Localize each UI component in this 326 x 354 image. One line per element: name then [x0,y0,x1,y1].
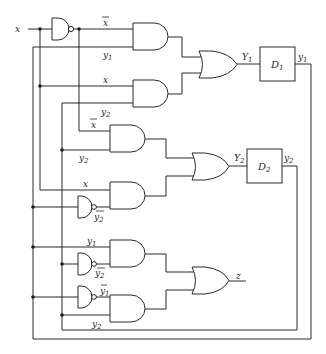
and-gate-6 [110,295,145,322]
label-xbar-and1: x [103,18,108,28]
junction-y1-nand2 [31,295,35,299]
inversion-bubble-icon [92,295,97,300]
label-z-output: z [235,271,241,281]
inversion-bubble-icon [68,26,73,31]
junction-y2-and3 [60,148,64,152]
wire-and5-or3 [145,254,194,272]
junction-y2-nand [60,262,64,266]
label-y2bar-and5: y2 [94,268,105,280]
wire-and1-or1 [168,37,201,57]
wire-and6-or3 [145,290,194,309]
and-gate-3 [110,125,145,152]
wire-y1-feedback [33,47,311,339]
wire-and4-or2 [145,176,194,196]
junction-x [38,27,42,31]
wire-and3-or2 [145,139,194,158]
label-Y2: Y2 [234,153,245,165]
label-y2-and2: y2 [100,107,111,119]
inversion-bubble-icon [92,262,97,267]
and-gate-1 [133,23,168,50]
and-gate-5 [110,240,145,267]
label-y1-and1: y1 [102,50,113,62]
and-gate-2 [133,80,168,107]
label-xbar-and3: x [91,120,96,130]
label-x-and2: x [103,75,108,85]
label-x-and4: x [83,179,88,189]
label-x-input: x [15,24,20,34]
junction-y2-and6 [60,313,64,317]
nand-gate-x [52,18,74,40]
junction-x-and2 [38,84,42,88]
junction-y1-nand [31,205,35,209]
or-gate-3 [192,267,229,294]
label-y1bar-and6: y1 [99,286,110,298]
junction-y1-and5 [31,245,35,249]
junction-xbar [77,27,81,31]
label-y2-and3: y2 [78,153,89,165]
nand-gate-y1bar [78,286,96,308]
label-y1-out: y1 [297,52,308,64]
or-gate-2 [192,153,229,180]
wire-x-and4 [40,29,110,190]
junctions [31,27,81,317]
wire-and2-or1 [168,73,201,94]
label-y1-and5: y1 [86,236,97,248]
label-y2-and6: y2 [91,319,102,331]
label-Y1: Y1 [242,52,252,64]
or-gate-1 [199,51,237,78]
label-y2-out: y2 [283,153,294,165]
nand-gate-y2bar-b [78,253,96,275]
and-gate-4 [110,182,145,209]
label-y2bar-and4: y2 [93,212,104,224]
inversion-bubble-icon [92,205,97,210]
logic-circuit-diagram: x x y1 x y2 x y2 x y2 y1 y2 y1 y2 Y1 D1 … [0,0,326,354]
